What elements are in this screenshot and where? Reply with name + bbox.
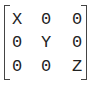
cell-r1-c1: X bbox=[7, 10, 27, 30]
cell-r3-c1: 0 bbox=[7, 57, 27, 77]
cell-r3-c3: Z bbox=[67, 57, 87, 77]
cell-r3-c2: 0 bbox=[36, 57, 56, 77]
cell-r2-c3: 0 bbox=[67, 33, 87, 53]
diagonal-matrix: X 0 0 0 Y 0 0 0 Z bbox=[0, 0, 91, 85]
cell-r2-c2: Y bbox=[36, 33, 56, 53]
cell-r2-c1: 0 bbox=[7, 33, 27, 53]
cell-r1-c3: 0 bbox=[67, 10, 87, 30]
cell-r1-c2: 0 bbox=[36, 10, 56, 30]
